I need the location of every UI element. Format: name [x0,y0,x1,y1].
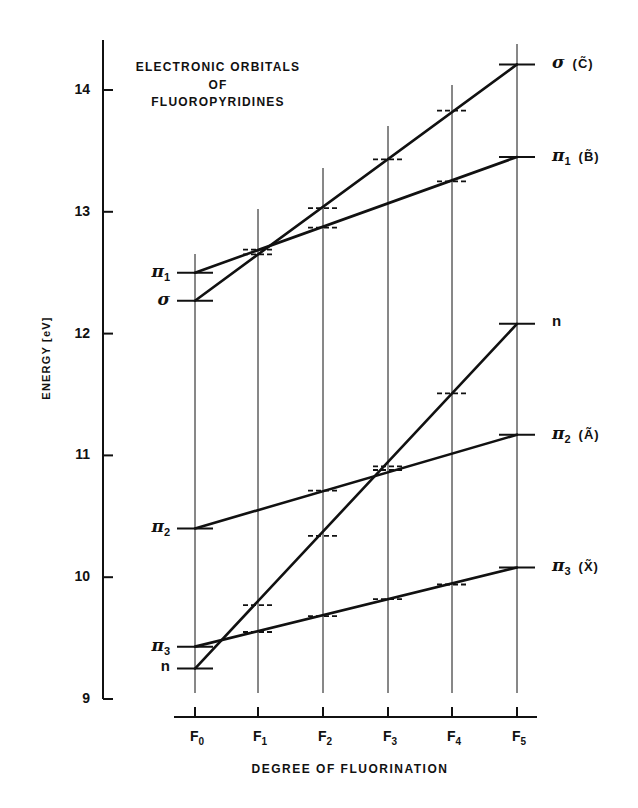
chart-canvas [0,0,638,808]
level-marks [177,64,535,668]
x-tick-label: F5 [504,728,534,747]
y-tick-label: 11 [60,446,90,462]
title-line-3: FLUOROPYRIDINES [98,95,338,109]
series-line [195,567,517,646]
series-left-label: n [130,657,170,674]
series-left-label: π1 [130,261,170,283]
series-right-label: σ(C̃) [552,52,594,72]
series-left-label: π2 [130,516,170,538]
y-tick-label: 9 [60,690,90,706]
x-axis-label: DEGREE OF FLUORINATION [200,762,500,776]
y-tick-label: 10 [60,568,90,584]
series-line [195,157,517,273]
y-tick-label: 14 [60,81,90,97]
x-tick-label: F1 [245,728,275,747]
series-left-label: σ [130,289,170,309]
y-axis [103,40,113,699]
title-line-2: OF [98,78,338,92]
x-tick-label: F4 [439,728,469,747]
vertical-gridlines [195,44,517,693]
series-left-label: π3 [130,635,170,657]
x-tick-label: F0 [182,728,212,747]
series-right-label: π3(X̃) [552,555,599,577]
series-right-label: π1(B̃) [552,145,600,167]
x-axis [174,707,537,717]
series-lines [195,64,517,668]
series-line [195,435,517,529]
series-right-label: π2(Ã) [552,423,600,445]
x-tick-label: F3 [375,728,405,747]
y-axis-label: ENERGY [eV] [40,308,52,408]
y-tick-label: 12 [60,325,90,341]
y-tick-label: 13 [60,203,90,219]
title-line-1: ELECTRONIC ORBITALS [98,60,338,74]
series-right-label: n [552,312,561,329]
x-tick-label: F2 [310,728,340,747]
series-line [195,324,517,669]
